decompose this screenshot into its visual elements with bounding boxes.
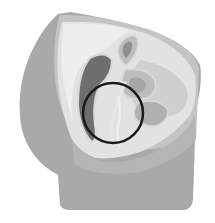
pelvic-cross-section-illustration [0, 0, 215, 223]
lower-right-organ [134, 101, 168, 126]
